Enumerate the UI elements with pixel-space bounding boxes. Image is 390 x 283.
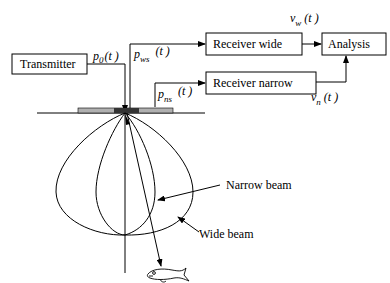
receiver-narrow-block: Receiver narrow <box>206 72 316 94</box>
svg-text:pws(t ): pws(t ) <box>133 44 170 64</box>
signal-vw: vw(t ) <box>290 11 319 28</box>
signal-vn: vn(t ) <box>311 90 338 107</box>
analysis-label: Analysis <box>328 37 370 51</box>
receiver-wide-block: Receiver wide <box>206 33 302 55</box>
fish-icon <box>147 268 189 282</box>
svg-text:p0(t ): p0(t ) <box>92 49 119 65</box>
signal-pws: pws(t ) <box>133 44 170 64</box>
sonar-dual-beam-diagram: Transmitter Receiver wide Receiver narro… <box>0 0 390 283</box>
narrow-beam-pointer <box>158 185 220 200</box>
transducer-icon <box>78 108 173 113</box>
receiver-wide-label: Receiver wide <box>213 37 282 51</box>
transmitter-label: Transmitter <box>20 57 76 71</box>
narrow-beam-label: Narrow beam <box>226 178 292 192</box>
target-ray <box>127 113 161 266</box>
signal-pns: pns(t ) <box>157 84 192 104</box>
wide-beam-label: Wide beam <box>199 227 254 241</box>
svg-text:vn(t ): vn(t ) <box>311 90 338 107</box>
svg-text:pns(t ): pns(t ) <box>157 84 192 104</box>
signal-p0: p0(t ) <box>92 49 119 65</box>
analysis-block: Analysis <box>322 33 386 55</box>
transmitter-block: Transmitter <box>12 54 87 74</box>
receiver-narrow-label: Receiver narrow <box>213 76 293 90</box>
wide-beam-lobe <box>56 113 193 235</box>
svg-text:vw(t ): vw(t ) <box>290 11 319 28</box>
wide-beam-pointer <box>178 217 199 232</box>
